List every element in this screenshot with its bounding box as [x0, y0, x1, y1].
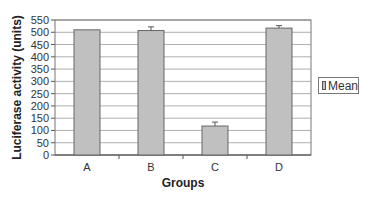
legend: Mean [318, 77, 359, 94]
y-tick-label: 100 [31, 124, 49, 136]
y-tick-label: 0 [43, 149, 49, 161]
x-tick-label: B [147, 161, 154, 173]
y-tick-label: 50 [37, 137, 49, 149]
y-tick-label: 550 [31, 14, 49, 26]
y-tick-label: 300 [31, 75, 49, 87]
x-tick-label: D [275, 161, 283, 173]
y-tick-label: 400 [31, 51, 49, 63]
y-tick-label: 250 [31, 88, 49, 100]
x-tick-label: C [211, 161, 219, 173]
y-tick-label: 200 [31, 100, 49, 112]
x-axis-title: Groups [162, 176, 205, 190]
y-axis-title: Luciferase activity (units) [10, 15, 24, 160]
bar-chart: 050100150200250300350400450500550ABCDGro… [0, 0, 372, 197]
legend-label: Mean [328, 79, 358, 93]
y-tick-label: 350 [31, 63, 49, 75]
bar-A [74, 30, 100, 155]
legend-swatch [322, 81, 326, 90]
bar-B [138, 31, 164, 155]
bar-D [266, 28, 292, 155]
y-tick-label: 150 [31, 112, 49, 124]
bar-C [202, 126, 228, 155]
x-tick-label: A [83, 161, 91, 173]
y-tick-label: 500 [31, 26, 49, 38]
y-tick-label: 450 [31, 39, 49, 51]
